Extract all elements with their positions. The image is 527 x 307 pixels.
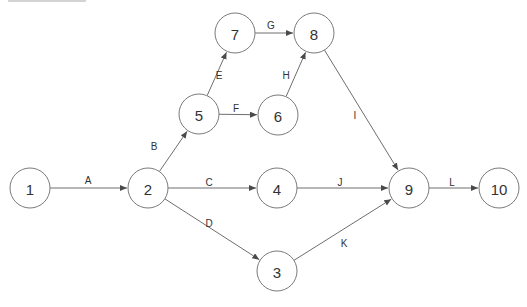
network-diagram: ABCDEFGHIJKL 12345678910 (0, 0, 527, 307)
node-8: 8 (294, 13, 334, 53)
arrow-line (165, 199, 260, 260)
edge-label: A (85, 175, 92, 186)
nodes-layer: 12345678910 (10, 13, 519, 291)
edge-label: J (338, 177, 343, 188)
node-label: 2 (144, 181, 152, 198)
arrow-line (159, 131, 187, 171)
edge-label: F (233, 103, 239, 114)
node-6: 6 (258, 95, 298, 135)
node-9: 9 (389, 168, 429, 208)
edge-g: G (255, 20, 293, 34)
node-3: 3 (257, 251, 297, 291)
edge-label: D (205, 218, 212, 229)
node-5: 5 (179, 94, 219, 134)
edge-h: H (282, 52, 305, 96)
node-label: 3 (273, 264, 281, 281)
edge-j: J (297, 177, 388, 189)
edge-b: B (151, 131, 187, 171)
node-10: 10 (479, 168, 519, 208)
node-7: 7 (215, 13, 255, 53)
edge-label: E (216, 70, 223, 81)
edge-label: C (205, 177, 212, 188)
edge-e: E (207, 52, 226, 96)
node-1: 1 (10, 168, 50, 208)
edge-label: L (449, 177, 455, 188)
edge-k: K (294, 199, 391, 260)
edge-label: B (151, 141, 158, 152)
edge-c: C (168, 177, 256, 189)
edge-label: K (341, 238, 348, 249)
node-label: 4 (273, 181, 281, 198)
node-label: 5 (195, 107, 203, 124)
node-label: 9 (405, 181, 413, 198)
edge-f: F (219, 103, 257, 115)
edge-label: G (267, 20, 275, 31)
edges-layer: ABCDEFGHIJKL (50, 20, 478, 261)
node-label: 8 (310, 26, 318, 43)
node-4: 4 (257, 168, 297, 208)
edge-i: I (324, 50, 398, 170)
edge-label: I (354, 110, 357, 121)
node-label: 6 (274, 108, 282, 125)
arrow-line (324, 50, 398, 170)
edge-l: L (429, 177, 478, 189)
arrow-line (294, 199, 391, 260)
node-label: 10 (491, 181, 508, 198)
edge-label: H (282, 70, 289, 81)
node-label: 7 (231, 26, 239, 43)
node-label: 1 (26, 181, 34, 198)
node-2: 2 (128, 168, 168, 208)
edge-d: D (165, 199, 260, 260)
edge-a: A (50, 175, 127, 189)
